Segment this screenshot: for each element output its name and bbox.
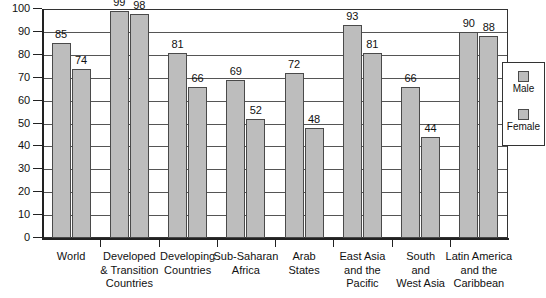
category-label-line: Caribbean bbox=[443, 277, 515, 291]
bar-value-label: 48 bbox=[301, 114, 327, 125]
y-axis-tick-label: 50 bbox=[0, 118, 30, 129]
bar-value-label: 72 bbox=[281, 59, 307, 70]
bar-value-label: 66 bbox=[398, 73, 424, 84]
bar bbox=[72, 69, 91, 238]
y-axis-tick bbox=[33, 100, 42, 101]
bar bbox=[401, 87, 420, 238]
bar-value-label: 98 bbox=[126, 0, 152, 11]
legend-item-male: Male bbox=[503, 71, 544, 94]
bar bbox=[246, 119, 265, 238]
legend-item-female: Female bbox=[503, 109, 544, 132]
legend-swatch-male bbox=[518, 71, 529, 82]
x-axis-tick bbox=[392, 240, 393, 247]
category-label: Latin Americaand theCaribbean bbox=[443, 250, 515, 291]
y-axis-tick bbox=[33, 54, 42, 55]
bar-value-label: 93 bbox=[339, 11, 365, 22]
y-axis-tick bbox=[33, 123, 42, 124]
bar bbox=[130, 14, 149, 238]
bar-value-label: 85 bbox=[48, 29, 74, 40]
bar-chart: 0102030405060708090100 85749998816669527… bbox=[0, 0, 546, 298]
bar bbox=[226, 80, 245, 238]
bar bbox=[459, 32, 478, 238]
legend: Male Female bbox=[502, 62, 545, 146]
bar bbox=[285, 73, 304, 238]
y-axis-tick-label: 30 bbox=[0, 163, 30, 174]
y-axis-tick bbox=[33, 31, 42, 32]
bar bbox=[363, 53, 382, 238]
y-axis-tick-label: 10 bbox=[0, 209, 30, 220]
y-axis-tick-label: 40 bbox=[0, 140, 30, 151]
legend-label-male: Male bbox=[503, 83, 544, 94]
y-axis-tick-label: 80 bbox=[0, 49, 30, 60]
y-axis-tick bbox=[33, 77, 42, 78]
bar bbox=[305, 128, 324, 238]
category-label-line: and the bbox=[443, 264, 515, 278]
x-axis-tick bbox=[333, 240, 334, 247]
y-axis-tick-label: 70 bbox=[0, 72, 30, 83]
bar bbox=[188, 87, 207, 238]
bar-value-label: 88 bbox=[476, 22, 502, 33]
bar bbox=[110, 11, 129, 238]
x-axis-tick bbox=[275, 240, 276, 247]
bar bbox=[343, 25, 362, 238]
bar-value-label: 66 bbox=[185, 73, 211, 84]
y-axis-tick bbox=[33, 8, 42, 9]
bar-value-label: 44 bbox=[418, 123, 444, 134]
y-axis-tick-label: 100 bbox=[0, 3, 30, 14]
y-axis-tick-label: 90 bbox=[0, 26, 30, 37]
bar bbox=[421, 137, 440, 238]
legend-swatch-female bbox=[518, 109, 529, 120]
bar-value-label: 74 bbox=[68, 55, 94, 66]
y-axis-tick-label: 0 bbox=[0, 232, 30, 243]
x-axis-tick bbox=[450, 240, 451, 247]
bar-value-label: 52 bbox=[243, 105, 269, 116]
y-axis-tick bbox=[33, 191, 42, 192]
x-axis-tick bbox=[159, 240, 160, 247]
y-axis bbox=[42, 9, 44, 239]
legend-label-female: Female bbox=[503, 121, 544, 132]
y-axis-tick bbox=[33, 168, 42, 169]
y-axis-tick bbox=[33, 237, 42, 238]
bar bbox=[479, 36, 498, 238]
bar-value-label: 69 bbox=[223, 66, 249, 77]
category-label-line: Latin America bbox=[443, 250, 515, 264]
x-axis-tick bbox=[217, 240, 218, 247]
y-axis-tick bbox=[33, 214, 42, 215]
bar-value-label: 81 bbox=[165, 39, 191, 50]
x-axis-tick bbox=[100, 240, 101, 247]
category-label-line: Countries bbox=[93, 277, 165, 291]
bar bbox=[52, 43, 71, 238]
bar-value-label: 81 bbox=[359, 39, 385, 50]
y-axis-tick bbox=[33, 145, 42, 146]
y-axis-tick-label: 20 bbox=[0, 186, 30, 197]
y-axis-tick-label: 60 bbox=[0, 95, 30, 106]
